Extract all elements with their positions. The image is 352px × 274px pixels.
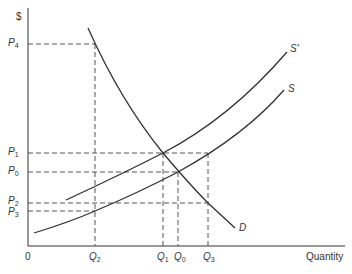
supply-demand-diagram (0, 0, 352, 274)
quantity-label-q2: Q2 (89, 252, 101, 263)
price-label-p1: P1 (8, 147, 19, 158)
x-axis-label: Quantity (306, 252, 343, 262)
supply-shifted-curve (66, 52, 287, 200)
quantity-label-q0: Q0 (174, 252, 186, 263)
price-label-p0: P0 (8, 166, 19, 177)
price-label-p4: P4 (8, 38, 19, 49)
quantity-label-q1: Q1 (157, 252, 169, 263)
quantity-label-q3: Q3 (203, 252, 215, 263)
supply-curve (34, 90, 284, 233)
origin-label: 0 (25, 252, 31, 262)
supply-shifted-label: S' (290, 44, 299, 54)
demand-curve (88, 28, 235, 228)
y-axis-label: $ (16, 12, 22, 22)
price-label-p3: P3 (8, 207, 19, 218)
supply-label: S (288, 84, 295, 94)
demand-label: D (239, 223, 246, 233)
